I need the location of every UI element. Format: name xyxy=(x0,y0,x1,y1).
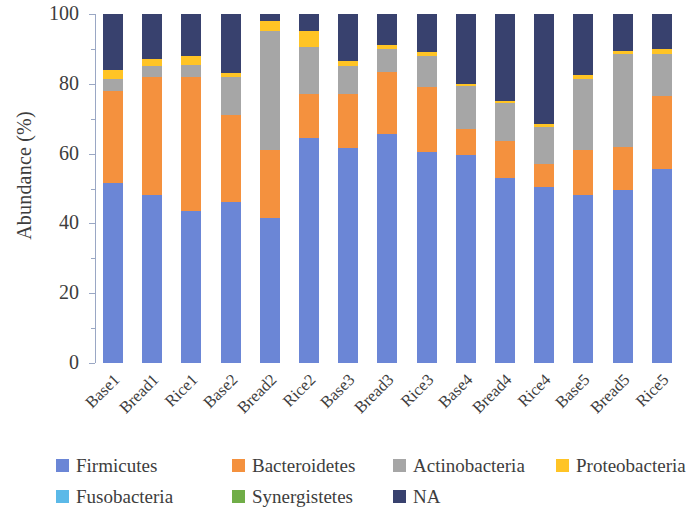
bar-segment-actinobacteria xyxy=(260,31,280,150)
bar-segment-proteobacteria xyxy=(103,70,123,79)
y-axis-tick-label: 20 xyxy=(35,282,79,302)
bar-segment-firmicutes xyxy=(142,195,162,363)
bar-segment-bacteroidetes xyxy=(338,94,358,148)
x-axis-label-bread1: Bread1 xyxy=(115,370,163,418)
legend-label: Fusobacteria xyxy=(76,487,173,506)
bar-segment-proteobacteria xyxy=(260,21,280,31)
legend-item-na[interactable]: NA xyxy=(393,487,440,506)
y-axis-tick-label: 0 xyxy=(35,352,79,372)
legend-item-fusobacteria[interactable]: Fusobacteria xyxy=(56,487,173,506)
bar-segment-firmicutes xyxy=(181,211,201,363)
bar-segment-bacteroidetes xyxy=(456,129,476,155)
x-axis-label-text: Bread3 xyxy=(351,370,399,418)
bar-segment-firmicutes xyxy=(103,183,123,363)
legend-label: Proteobacteria xyxy=(576,456,686,475)
bar-segment-na xyxy=(613,14,633,51)
bar-segment-proteobacteria xyxy=(534,124,554,127)
legend-item-firmicutes[interactable]: Firmicutes xyxy=(56,456,157,475)
bar-segment-bacteroidetes xyxy=(142,77,162,196)
bar-segment-actinobacteria xyxy=(613,54,633,146)
legend-swatch-icon xyxy=(232,490,245,503)
legend-item-synergistetes[interactable]: Synergistetes xyxy=(232,487,353,506)
bar-base5 xyxy=(573,14,593,363)
bar-rice4 xyxy=(534,14,554,363)
bar-segment-na xyxy=(338,14,358,61)
legend-swatch-icon xyxy=(56,459,69,472)
bar-segment-na xyxy=(260,14,280,21)
bar-segment-proteobacteria xyxy=(299,31,319,47)
bar-segment-na xyxy=(181,14,201,56)
bar-rice2 xyxy=(299,14,319,363)
bar-segment-na xyxy=(142,14,162,59)
bar-base2 xyxy=(221,14,241,363)
bar-segment-firmicutes xyxy=(417,152,437,363)
bar-segment-na xyxy=(221,14,241,73)
bar-segment-proteobacteria xyxy=(613,51,633,54)
legend-label: Bacteroidetes xyxy=(252,456,355,475)
stacked-bar-chart: Abundance (%) 020406080100 Base1Bread1Ri… xyxy=(0,0,699,524)
bar-bread5 xyxy=(613,14,633,363)
x-axis-label-bread5: Bread5 xyxy=(586,370,634,418)
x-axis-label-text: Rice4 xyxy=(514,370,555,411)
bar-segment-actinobacteria xyxy=(573,79,593,151)
x-axis-label-rice3: Rice3 xyxy=(396,370,437,411)
legend-item-proteobacteria[interactable]: Proteobacteria xyxy=(556,456,686,475)
bar-rice3 xyxy=(417,14,437,363)
legend-item-actinobacteria[interactable]: Actinobacteria xyxy=(393,456,525,475)
bar-base3 xyxy=(338,14,358,363)
x-axis-label-bread4: Bread4 xyxy=(468,370,516,418)
bar-segment-firmicutes xyxy=(495,178,515,363)
bar-segment-firmicutes xyxy=(377,134,397,363)
bar-segment-bacteroidetes xyxy=(417,87,437,152)
x-axis-label-rice5: Rice5 xyxy=(632,370,673,411)
bar-segment-proteobacteria xyxy=(377,45,397,48)
legend-swatch-icon xyxy=(56,490,69,503)
x-axis-label-bread2: Bread2 xyxy=(233,370,281,418)
plot-area: 020406080100 xyxy=(95,14,699,363)
bar-segment-na xyxy=(652,14,672,49)
bar-bread1 xyxy=(142,14,162,363)
bar-segment-firmicutes xyxy=(534,187,554,363)
bar-segment-na xyxy=(495,14,515,101)
bar-segment-bacteroidetes xyxy=(221,115,241,202)
y-axis-tick-label: 40 xyxy=(35,212,79,232)
bar-segment-bacteroidetes xyxy=(103,91,123,183)
bar-bread2 xyxy=(260,14,280,363)
legend-item-bacteroidetes[interactable]: Bacteroidetes xyxy=(232,456,355,475)
y-axis-tick-label: 80 xyxy=(35,73,79,93)
y-axis-tick-label: 60 xyxy=(35,143,79,163)
bar-segment-actinobacteria xyxy=(142,66,162,76)
x-axis-label-bread3: Bread3 xyxy=(351,370,399,418)
bar-segment-proteobacteria xyxy=(181,56,201,65)
legend-label: Synergistetes xyxy=(252,487,353,506)
bar-segment-firmicutes xyxy=(299,138,319,363)
bar-rice5 xyxy=(652,14,672,363)
bar-segment-firmicutes xyxy=(338,148,358,363)
bar-segment-firmicutes xyxy=(456,155,476,363)
chart-legend: FirmicutesBacteroidetesActinobacteriaPro… xyxy=(56,452,699,514)
bar-segment-proteobacteria xyxy=(417,52,437,55)
bar-segment-na xyxy=(103,14,123,70)
x-axis-label-text: Rice2 xyxy=(279,370,320,411)
bar-segment-actinobacteria xyxy=(495,103,515,141)
bar-segment-bacteroidetes xyxy=(495,141,515,178)
bar-segment-bacteroidetes xyxy=(534,164,554,187)
legend-label: NA xyxy=(413,487,440,506)
bar-segment-bacteroidetes xyxy=(613,147,633,191)
legend-label: Actinobacteria xyxy=(413,456,525,475)
bar-segment-na xyxy=(299,14,319,31)
bar-segment-actinobacteria xyxy=(456,86,476,130)
x-axis-label-text: Bread4 xyxy=(468,370,516,418)
bar-segment-firmicutes xyxy=(260,218,280,363)
x-axis-label-text: Rice5 xyxy=(632,370,673,411)
bar-segment-actinobacteria xyxy=(221,77,241,115)
bar-segment-bacteroidetes xyxy=(573,150,593,195)
bar-segment-proteobacteria xyxy=(221,73,241,76)
bar-segment-proteobacteria xyxy=(573,75,593,78)
bar-segment-bacteroidetes xyxy=(377,72,397,135)
bar-segment-proteobacteria xyxy=(652,49,672,54)
legend-swatch-icon xyxy=(393,490,406,503)
legend-swatch-icon xyxy=(232,459,245,472)
bar-segment-proteobacteria xyxy=(456,84,476,86)
bar-segment-firmicutes xyxy=(573,195,593,363)
